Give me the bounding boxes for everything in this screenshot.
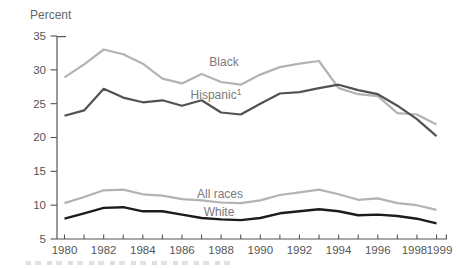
series-line-hispanic [65, 85, 437, 136]
x-tick-label: 1986 [169, 244, 195, 256]
series-line-black [65, 50, 437, 125]
x-tick-label: 1982 [91, 244, 117, 256]
x-tick-label: 1996 [365, 244, 391, 256]
x-tick-label: 1990 [248, 244, 274, 256]
series-lines [65, 50, 437, 224]
axes: 5101520253035198019821984198619881990199… [33, 30, 452, 256]
x-tick-label: 1998 [402, 244, 428, 256]
y-tick-label: 10 [33, 199, 46, 211]
y-tick-label: 20 [33, 131, 46, 143]
chart-canvas: Percent 51015202530351980198219841986198… [0, 0, 457, 268]
x-tick-label: 1984 [130, 244, 156, 256]
y-tick-label: 30 [33, 64, 46, 76]
y-tick-label: 15 [33, 165, 46, 177]
series-label-black: Black [209, 55, 239, 69]
series-label-white: White [204, 205, 235, 219]
y-tick-label: 5 [40, 233, 46, 245]
series-label-all-races: All races [197, 187, 243, 201]
series-line-white [65, 207, 437, 223]
footnote-clipped-text [26, 261, 234, 265]
poverty-rate-line-chart: Percent 51015202530351980198219841986198… [0, 0, 457, 268]
x-tick-label: 1992 [287, 244, 313, 256]
y-tick-label: 35 [33, 30, 46, 42]
x-tick-label: 1988 [208, 244, 234, 256]
y-axis-title: Percent [30, 8, 72, 22]
x-tick-label: 1994 [326, 244, 352, 256]
series-label-hispanic: Hispanic1 [191, 87, 242, 102]
y-tick-label: 25 [33, 98, 46, 110]
x-tick-label: 1980 [52, 244, 78, 256]
x-tick-label: 1999 [427, 244, 453, 256]
